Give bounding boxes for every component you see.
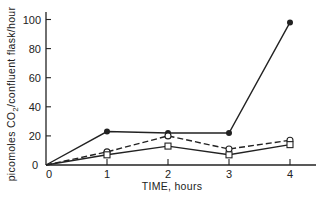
y-tick-label: 60 [29,72,41,84]
open-square-marker [104,152,110,158]
open-square-marker [165,143,171,149]
filled-circle-marker [287,19,293,25]
open-square-marker [287,142,293,148]
y-axis-title: picomoles CO2/confluent flask/hour [5,7,20,182]
x-tick-label: 1 [104,168,110,180]
x-axis-title: TIME, hours [142,180,202,192]
y-tick-label: 100 [23,14,41,26]
filled-circle-marker [104,129,110,135]
y-tick-label: 0 [32,159,38,171]
open-square-marker [226,152,232,158]
x-tick-label: 3 [226,168,232,180]
line-chart: 02040608010001234 TIME, hours picomoles … [0,0,325,197]
axes: 02040608010001234 [23,12,316,180]
y-tick-label: 80 [29,43,41,55]
y-tick-label: 20 [29,130,41,142]
open-circle-marker [165,133,171,139]
open-circle-marker [226,146,232,152]
y-tick-label: 40 [29,101,41,113]
x-tick-label: 2 [165,168,171,180]
series-layer [46,19,293,165]
filled-circle-marker [226,130,232,136]
x-tick-label: 4 [287,168,293,180]
x-tick-label: 0 [46,168,52,180]
